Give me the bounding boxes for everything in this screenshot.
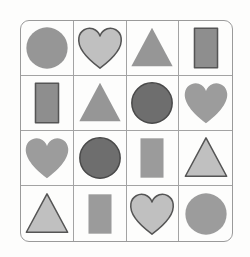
grid-cell-r1c4 [179,21,232,76]
grid-cell-r1c1 [21,21,74,76]
grid-cell-r3c1 [21,131,74,186]
grid-cell-r4c4 [179,186,232,241]
grid-cell-r4c2 [74,186,127,241]
heart-icon [179,76,232,130]
circle-icon [179,186,232,241]
grid-cell-r4c1 [21,186,74,241]
circle-icon [127,76,179,130]
shape-grid [20,20,233,242]
rectangle-icon [127,131,179,185]
rectangle-icon [21,76,73,130]
grid-cell-r2c4 [179,76,232,131]
grid-cell-r2c2 [74,76,127,131]
circle-icon [21,21,73,75]
grid-cell-r1c3 [127,21,180,76]
rectangle-icon [179,21,232,75]
grid-cell-r1c2 [74,21,127,76]
rectangle-icon [74,186,126,241]
grid-cell-r2c3 [127,76,180,131]
heart-icon [21,131,73,185]
circle-icon [74,131,126,185]
heart-icon [127,186,179,241]
grid-cell-r4c3 [127,186,180,241]
grid-cell-r3c4 [179,131,232,186]
shape-grid-figure [0,0,250,257]
triangle-icon [74,76,126,130]
triangle-icon [127,21,179,75]
heart-icon [74,21,126,75]
grid-cell-r3c3 [127,131,180,186]
triangle-icon [179,131,232,185]
grid-cell-r2c1 [21,76,74,131]
grid-cell-r3c2 [74,131,127,186]
triangle-icon [21,186,73,241]
